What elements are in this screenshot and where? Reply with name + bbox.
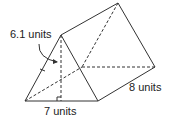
- back-slant-edge: [118, 3, 155, 67]
- length-label: 8 units: [129, 81, 161, 93]
- arrow-head-icon: [53, 59, 58, 64]
- right-angle-mark: [57, 97, 61, 101]
- prism-diagram: 6.1 units 7 units 8 units: [0, 0, 170, 119]
- top-ridge-edge: [61, 3, 118, 35]
- height-label: 6.1 units: [10, 28, 52, 40]
- base-label: 7 units: [44, 105, 76, 117]
- prism-figure: [0, 0, 170, 119]
- hidden-base-edge: [25, 67, 82, 101]
